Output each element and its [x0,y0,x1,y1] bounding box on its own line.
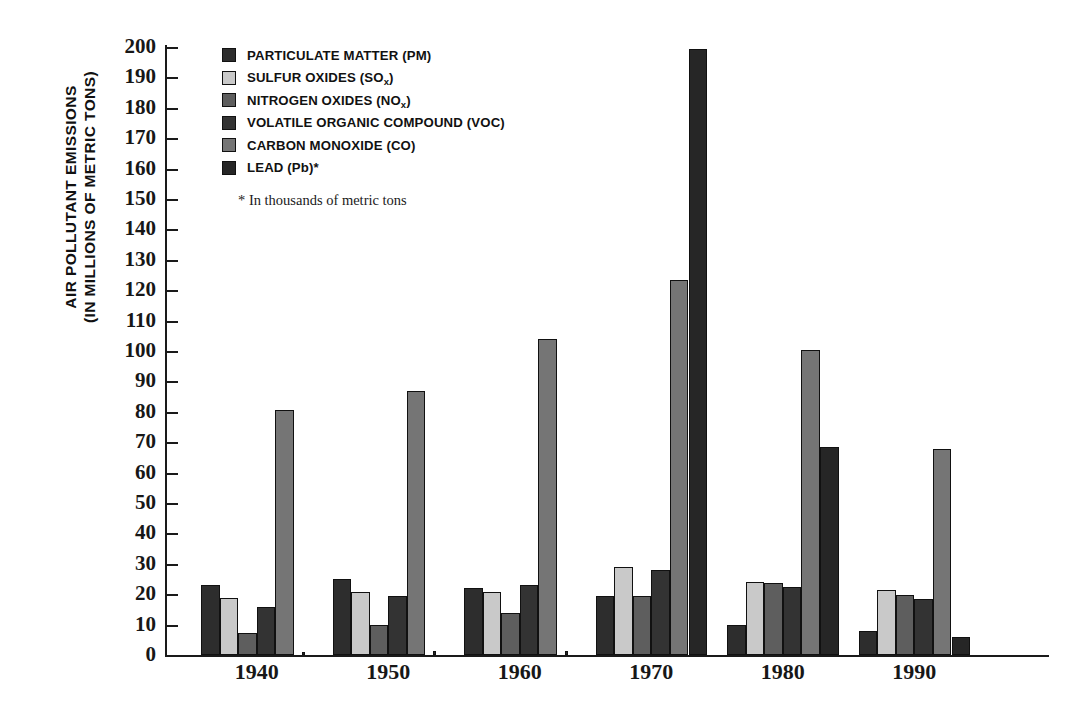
legend-item-label: PARTICULATE MATTER (PM) [247,48,431,63]
legend-item[interactable]: PARTICULATE MATTER (PM) [222,44,652,67]
legend-swatch-pm [222,48,236,62]
legend-swatch-co [222,138,236,152]
x-axis-tick-label: 1960 [464,659,576,685]
bar [275,410,294,655]
x-axis-tick-label: 1990 [859,659,971,685]
y-axis-tick-label: 190 [96,66,156,87]
legend-item[interactable]: LEAD (Pb)* [222,157,652,180]
y-axis-tick-label: 10 [96,614,156,635]
bar [388,596,407,655]
bar [651,570,670,655]
bar [764,583,783,655]
bar [933,449,952,655]
y-axis-tick-label: 20 [96,583,156,604]
bar [351,592,370,655]
bar [257,607,276,655]
y-axis-tick-label: 200 [96,36,156,57]
bar [727,625,746,655]
bar [801,350,820,655]
y-axis-tick-label: 140 [96,218,156,239]
bar [820,447,839,655]
chart-legend: PARTICULATE MATTER (PM)SULFUR OXIDES (SO… [222,44,652,179]
bar [201,585,220,655]
y-axis-tick-label: 70 [96,431,156,452]
legend-swatch-pb [222,161,236,175]
bar [689,49,708,655]
bar [565,651,568,655]
y-axis-tick-label: 90 [96,370,156,391]
x-axis-tick-label: 1950 [333,659,445,685]
bar [877,590,896,655]
y-axis-tick-label: 100 [96,340,156,361]
bar [633,596,652,655]
legend-footnote: * In thousands of metric tons [238,192,407,209]
y-axis-tick-label: 120 [96,279,156,300]
y-axis-tick-label: 50 [96,492,156,513]
x-axis-tick-label: 1980 [727,659,839,685]
bar [952,637,971,655]
legend-item[interactable]: NITROGEN OXIDES (NOx) [222,89,652,112]
bar [501,613,520,655]
bar [333,579,352,655]
bar [464,588,483,655]
bar [538,339,557,655]
legend-item-label: CARBON MONOXIDE (CO) [247,138,416,153]
bar [896,595,915,655]
bar [614,567,633,655]
bar [914,599,933,655]
bar [596,596,615,655]
bar-group: 1980 [727,47,839,655]
legend-item-label: VOLATILE ORGANIC COMPOUND (VOC) [247,115,505,130]
bar [483,592,502,655]
x-axis-line [165,655,1049,657]
bar-group: 1990 [859,47,971,655]
bar [407,391,426,655]
y-axis-tick-label: 80 [96,401,156,422]
bar [238,633,257,655]
legend-item[interactable]: CARBON MONOXIDE (CO) [222,134,652,157]
bar [670,280,689,655]
bar [302,652,305,655]
y-axis-tick-label: 60 [96,462,156,483]
legend-item[interactable]: VOLATILE ORGANIC COMPOUND (VOC) [222,112,652,135]
legend-swatch-voc [222,116,236,130]
legend-item-label: SULFUR OXIDES (SOx) [247,70,394,85]
x-axis-tick-label: 1970 [596,659,708,685]
legend-swatch-sox [222,71,236,85]
legend-item-label: NITROGEN OXIDES (NOx) [247,93,411,108]
legend-item-label: LEAD (Pb)* [247,160,319,175]
bar [746,582,765,655]
y-axis-title: AIR POLLUTANT EMISSIONS (IN MILLIONS OF … [61,32,99,362]
bar [220,598,239,655]
bar [520,585,539,655]
bar [783,587,802,655]
y-axis-tick-label: 180 [96,97,156,118]
y-axis-tick-labels: 0102030405060708090100110120130140150160… [96,0,156,709]
y-axis-tick-label: 110 [96,310,156,331]
y-axis-title-line1: AIR POLLUTANT EMISSIONS [61,32,80,362]
bar [859,631,878,655]
legend-swatch-nox [222,93,236,107]
legend-item[interactable]: SULFUR OXIDES (SOx) [222,67,652,90]
y-axis-tick-label: 40 [96,522,156,543]
y-axis-tick-label: 150 [96,188,156,209]
chart-root: AIR POLLUTANT EMISSIONS (IN MILLIONS OF … [0,0,1069,709]
y-axis-tick-label: 130 [96,249,156,270]
bar [370,625,389,655]
y-axis-tick-label: 30 [96,553,156,574]
y-axis-tick-label: 0 [96,644,156,665]
x-axis-tick-label: 1940 [201,659,313,685]
y-axis-tick-label: 160 [96,158,156,179]
bar [433,651,436,655]
y-axis-tick-label: 170 [96,127,156,148]
